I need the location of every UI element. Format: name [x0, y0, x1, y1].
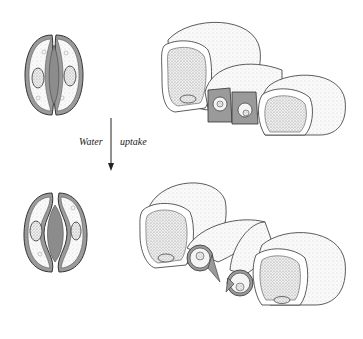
closed-stoma-3d-section — [162, 22, 346, 135]
open-stoma-3d-section — [140, 183, 346, 305]
open-stoma-surface-view — [24, 193, 87, 272]
nucleus-left — [32, 68, 44, 88]
water-label: Water — [79, 136, 103, 147]
stomata-diagram — [0, 0, 363, 339]
uptake-label: uptake — [120, 136, 147, 147]
closed-stoma-surface-view — [25, 35, 83, 115]
water-uptake-arrow — [108, 118, 114, 171]
nucleus-right — [64, 66, 76, 86]
